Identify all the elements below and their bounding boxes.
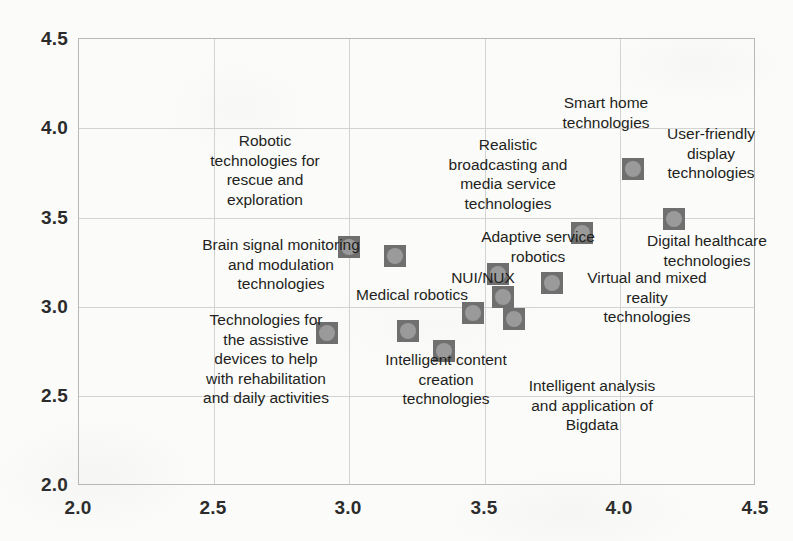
data-point-medical-robotics[interactable] — [397, 320, 419, 342]
label-nui-nux: NUI/NUX — [438, 268, 528, 288]
label-medical-robotics: Medical robotics — [342, 285, 482, 305]
data-point-robotic-rescue-exploration[interactable] — [384, 245, 406, 267]
data-point-smart-home-user-friendly-display[interactable] — [622, 158, 644, 180]
gridline-y-3.5 — [79, 218, 754, 219]
data-point-adaptive-service-robotics-lower[interactable] — [492, 286, 514, 308]
x-tick-2.5: 2.5 — [178, 497, 248, 519]
y-tick-3.0: 3.0 — [10, 296, 68, 318]
label-user-friendly-display: User-friendly display technologies — [646, 124, 776, 183]
x-tick-3.0: 3.0 — [313, 497, 383, 519]
x-tick-3.5: 3.5 — [449, 497, 519, 519]
label-intelligent-analysis-bigdata: Intelligent analysis and application of … — [508, 376, 676, 435]
label-realistic-broadcasting-media: Realistic broadcasting and media service… — [424, 135, 592, 213]
label-virtual-mixed-reality: Virtual and mixed reality technologies — [566, 268, 728, 327]
label-robotic-rescue-exploration: Robotic technologies for rescue and expl… — [180, 131, 350, 209]
y-tick-4.0: 4.0 — [10, 117, 68, 139]
label-assistive-rehabilitation-devices: Technologies for the assistive devices t… — [172, 310, 360, 408]
label-digital-healthcare: Digital healthcare technologies — [628, 231, 786, 270]
y-tick-4.5: 4.5 — [10, 28, 68, 50]
data-point-virtual-mixed-reality[interactable] — [541, 272, 563, 294]
y-tick-3.5: 3.5 — [10, 207, 68, 229]
y-tick-2.5: 2.5 — [10, 385, 68, 407]
scatter-plot-figure: 4.5 4.0 3.5 3.0 2.5 2.0 2.0 2.5 3.0 3.5 … — [0, 0, 793, 541]
y-tick-2.0: 2.0 — [10, 474, 68, 496]
x-tick-2.0: 2.0 — [43, 497, 113, 519]
label-intelligent-content-creation: Intelligent content creation technologie… — [366, 350, 526, 409]
data-point-digital-healthcare[interactable] — [663, 208, 685, 230]
x-tick-4.0: 4.0 — [584, 497, 654, 519]
data-point-intelligent-analysis-bigdata[interactable] — [503, 308, 525, 330]
label-adaptive-service-robotics: Adaptive service robotics — [462, 227, 614, 266]
x-tick-4.5: 4.5 — [720, 497, 790, 519]
data-point-nui-nux[interactable] — [462, 302, 484, 324]
